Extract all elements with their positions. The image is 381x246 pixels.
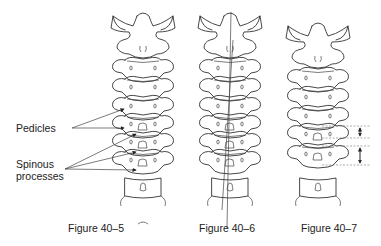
figure-40-7-spine	[286, 23, 370, 206]
spinous-processes-label-line2: processes	[16, 170, 64, 182]
spinous-processes-label-line1: Spinous	[16, 158, 54, 170]
figure-40-5-caption: Figure 40–5	[51, 222, 141, 234]
figure-40-6-caption: Figure 40–6	[182, 222, 272, 234]
figure-40-7-caption: Figure 40–7	[284, 222, 374, 234]
figure-40-6-spine	[198, 12, 262, 228]
figure-40-5-spine	[65, 13, 175, 224]
pedicles-label: Pedicles	[16, 122, 56, 134]
spine-diagram	[0, 0, 381, 246]
